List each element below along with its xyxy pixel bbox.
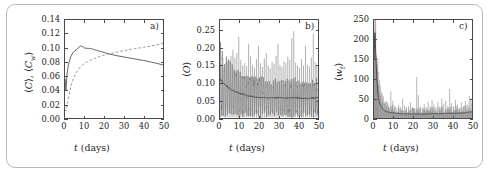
panel-c-xtick-mark: [413, 19, 414, 23]
panel-b-xtick-mark: [299, 19, 300, 23]
panel-a-xtick-mark: [84, 19, 85, 23]
panel-c-plot-area: [373, 19, 473, 119]
panel-c-xtick-mark: [373, 19, 374, 23]
panel-b-tag: b): [305, 21, 314, 31]
panel-c-xtick-mark: [433, 116, 434, 120]
panel-a-ytick-label: 0.02: [18, 100, 60, 110]
panel-a-xtick-mark: [144, 19, 145, 23]
panel-b-ytick-label: 0.15: [173, 60, 215, 70]
panel-c-xtick-mark: [393, 116, 394, 120]
panel-a-xtick-mark: [144, 116, 145, 120]
panel-c-ytick-label: 200: [327, 34, 369, 44]
panel-a-xtick-mark: [163, 116, 164, 120]
panel-c-xtick-mark: [453, 116, 454, 120]
panel-b-xtick-mark: [219, 116, 220, 120]
panel-a-xtick-mark: [104, 116, 105, 120]
panel-a-xtick-mark: [163, 19, 164, 23]
panel-c-ytick-label: 100: [327, 74, 369, 84]
panel-c-ytick-mark: [373, 79, 377, 80]
panel-c-xlabel: t (days): [383, 142, 419, 153]
panel-a-ytick-label: 0.12: [18, 28, 60, 38]
panel-b-ytick-mark: [219, 48, 223, 49]
panel-b-xtick-mark: [279, 116, 280, 120]
panel-b-xtick-mark: [239, 19, 240, 23]
panel-b-ytick-mark: [219, 101, 223, 102]
panel-c-tag: c): [459, 21, 468, 31]
panel-a-xtick-mark: [104, 19, 105, 23]
panel-a-xlabel: t (days): [74, 142, 110, 153]
panel-c-xtick-mark: [373, 116, 374, 120]
panel-a-ytick-label: 0.10: [18, 43, 60, 53]
panel-a-ytick-mark: [64, 48, 68, 49]
panel-a: ⟨C⟩, ⟨Cw⟩ a) t (days) 0.000.020.040.060.…: [13, 5, 173, 169]
panel-a-ytick-label: 0.06: [18, 71, 60, 81]
panel-a-ytick-mark: [161, 33, 165, 34]
panel-b-ytick-mark: [316, 48, 320, 49]
panel-b-ytick-label: 0.10: [173, 78, 215, 88]
panel-c: ⟨wf⟩ c) t (days) 05010015020025001020304…: [327, 5, 484, 169]
panel-b-xtick-mark: [259, 116, 260, 120]
panel-b-xtick-mark: [299, 116, 300, 120]
panel-c-xtick-mark: [472, 19, 473, 23]
panel-a-ytick-mark: [64, 105, 68, 106]
panel-b-ytick-mark: [219, 83, 223, 84]
panel-a-ytick-mark: [64, 33, 68, 34]
panel-a-ytick-mark: [161, 90, 165, 91]
panel-a-ytick-mark: [161, 105, 165, 106]
panel-c-ytick-mark: [470, 39, 474, 40]
panel-c-ytick-label: 250: [327, 14, 369, 24]
panel-a-ytick-label: 0.08: [18, 57, 60, 67]
panel-a-ytick-mark: [161, 119, 165, 120]
panel-b-ytick-mark: [316, 30, 320, 31]
panel-b-curves: [220, 20, 318, 118]
panel-c-ytick-mark: [470, 119, 474, 120]
panel-c-ytick-mark: [373, 119, 377, 120]
panel-a-ytick-mark: [161, 48, 165, 49]
panel-a-ytick-mark: [64, 90, 68, 91]
panel-c-xtick-mark: [413, 116, 414, 120]
panel-b-xtick-mark: [219, 19, 220, 23]
panel-c-curves: [374, 20, 472, 118]
panel-b-ytick-mark: [219, 65, 223, 66]
panel-b-xtick-mark: [259, 19, 260, 23]
panel-c-ytick-mark: [373, 99, 377, 100]
figure-container: ⟨C⟩, ⟨Cw⟩ a) t (days) 0.000.020.040.060.…: [6, 4, 483, 168]
panel-a-xtick-mark: [84, 116, 85, 120]
panel-b-xtick-mark: [318, 116, 319, 120]
panel-b-ytick-mark: [316, 65, 320, 66]
panel-a-curves: [65, 20, 163, 118]
panel-a-ytick-mark: [64, 76, 68, 77]
panel-a-ytick-mark: [161, 62, 165, 63]
panel-c-ytick-label: 50: [327, 94, 369, 104]
panel-c-ytick-mark: [470, 99, 474, 100]
panel-b-xlabel: t (days): [229, 142, 265, 153]
panel-b-xtick-mark: [239, 116, 240, 120]
panel-b-ytick-mark: [316, 101, 320, 102]
panel-a-ytick-mark: [64, 62, 68, 63]
panel-a-tag: a): [150, 21, 159, 31]
panel-b-ytick-mark: [316, 83, 320, 84]
panel-b: ⟨O⟩ b) t (days) 0.000.050.100.150.200.25…: [169, 5, 329, 169]
panel-b-plot-area: [219, 19, 319, 119]
panel-c-ytick-label: 150: [327, 54, 369, 64]
panel-c-ytick-mark: [373, 59, 377, 60]
panel-b-xtick-mark: [318, 19, 319, 23]
panel-a-xtick-mark: [124, 116, 125, 120]
panel-a-ytick-mark: [161, 76, 165, 77]
panel-c-xtick-mark: [453, 19, 454, 23]
panel-b-ytick-mark: [219, 30, 223, 31]
panel-a-ytick-mark: [64, 119, 68, 120]
panel-c-xtick-label: 50: [461, 121, 485, 131]
panel-c-xtick-mark: [393, 19, 394, 23]
panel-b-ytick-mark: [219, 119, 223, 120]
panel-b-ytick-mark: [316, 119, 320, 120]
panel-b-xtick-mark: [279, 19, 280, 23]
panel-c-ytick-mark: [470, 79, 474, 80]
panel-a-xtick-mark: [64, 116, 65, 120]
panel-b-ytick-label: 0.05: [173, 96, 215, 106]
panel-b-ytick-label: 0.20: [173, 43, 215, 53]
panel-c-xtick-mark: [433, 19, 434, 23]
panel-a-plot-area: [64, 19, 164, 119]
panel-a-ytick-label: 0.04: [18, 85, 60, 95]
panel-a-ytick-label: 0.14: [18, 14, 60, 24]
